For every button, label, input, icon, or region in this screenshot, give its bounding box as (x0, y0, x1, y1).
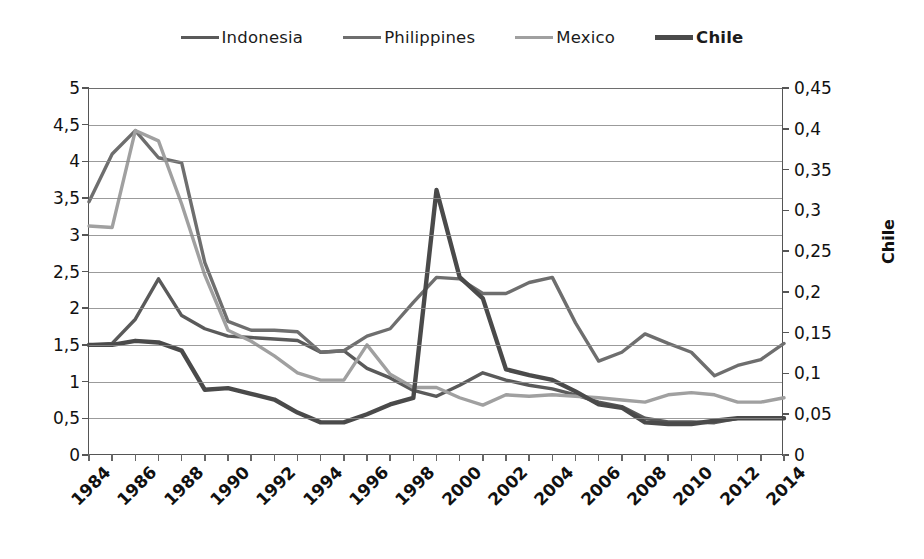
legend-item-label: Indonesia (222, 28, 304, 47)
left-axis-tick (82, 87, 89, 89)
right-axis-tick-label: 0,1 (794, 363, 821, 383)
left-axis-tick (82, 161, 89, 163)
x-axis-tick (320, 454, 322, 461)
left-axis-tick-label: 3 (69, 225, 80, 245)
gridline (89, 125, 782, 126)
right-axis-tick (782, 169, 789, 171)
legend-line-icon (343, 36, 381, 40)
legend-item-philippines: Philippines (343, 28, 475, 47)
x-axis-tick (575, 454, 577, 461)
right-axis-tick (782, 250, 789, 252)
gridline (89, 382, 782, 383)
right-axis-tick-label: 0,25 (794, 241, 832, 261)
x-axis-tick (436, 454, 438, 461)
legend-item-label: Mexico (556, 28, 615, 47)
x-axis-tick (343, 454, 345, 461)
left-axis-labels: 54,543,532,521,510,50 (8, 88, 80, 455)
x-axis-tick (528, 454, 530, 461)
right-axis-labels: 0,450,40,350,30,250,20,150,10,050 (794, 88, 864, 455)
right-axis-title: Chile (879, 219, 898, 264)
right-axis-tick-label: 0,3 (794, 200, 821, 220)
x-axis-tick-label: 1984 (67, 462, 115, 510)
right-axis-tick-label: 0,45 (794, 78, 832, 98)
x-axis-tick-label: 2008 (623, 462, 671, 510)
x-axis-tick-label: 1990 (206, 462, 254, 510)
x-axis-tick (459, 454, 461, 461)
left-axis-tick-label: 2 (69, 298, 80, 318)
gridline (89, 198, 782, 199)
chart-legend: IndonesiaPhilippinesMexicoChile (0, 28, 924, 47)
x-axis-tick (158, 454, 160, 461)
legend-line-icon (655, 35, 693, 40)
x-axis-tick-label: 2014 (762, 462, 810, 510)
x-axis-tick (644, 454, 646, 461)
right-axis-tick (782, 291, 789, 293)
left-axis-tick (82, 418, 89, 420)
left-axis-tick-label: 1,5 (53, 335, 80, 355)
series-line-mexico (89, 131, 784, 406)
legend-item-label: Chile (696, 28, 743, 47)
gridline (89, 272, 782, 273)
x-axis-tick-label: 1992 (252, 462, 300, 510)
series-line-philippines (89, 131, 784, 376)
x-axis-tick (389, 454, 391, 461)
x-axis-tick-label: 2000 (438, 462, 486, 510)
legend-item-indonesia: Indonesia (181, 28, 304, 47)
right-axis-tick-label: 0,35 (794, 160, 832, 180)
plot-area (88, 88, 783, 455)
left-axis-tick-label: 5 (69, 78, 80, 98)
x-axis-tick (250, 454, 252, 461)
x-axis-tick-label: 2002 (484, 462, 532, 510)
x-axis-tick (552, 454, 554, 461)
left-axis-tick (82, 381, 89, 383)
gridline (89, 235, 782, 236)
left-axis-tick (82, 307, 89, 309)
x-axis-tick-label: 2004 (530, 462, 578, 510)
left-axis-tick (82, 344, 89, 346)
legend-item-chile: Chile (655, 28, 743, 47)
x-axis-tick (737, 454, 739, 461)
right-axis-tick (782, 332, 789, 334)
x-axis-tick (135, 454, 137, 461)
x-axis-tick-label: 2010 (669, 462, 717, 510)
right-axis-tick-label: 0,4 (794, 119, 821, 139)
left-axis-tick-label: 2,5 (53, 262, 80, 282)
gridline (89, 88, 782, 89)
right-axis-tick-label: 0,2 (794, 282, 821, 302)
gridline (89, 308, 782, 309)
left-axis-tick (82, 234, 89, 236)
left-axis-tick-label: 4 (69, 151, 80, 171)
left-axis-tick-label: 3,5 (53, 188, 80, 208)
gridline (89, 161, 782, 162)
x-axis-tick (413, 454, 415, 461)
x-axis-tick (88, 454, 90, 461)
x-axis-tick-label: 2012 (716, 462, 764, 510)
left-axis-tick (82, 197, 89, 199)
series-line-indonesia (89, 279, 784, 423)
x-axis-tick (274, 454, 276, 461)
legend-line-icon (515, 36, 553, 40)
x-axis-tick (111, 454, 113, 461)
x-axis-tick (204, 454, 206, 461)
x-axis-tick (714, 454, 716, 461)
chart-figure: IndonesiaPhilippinesMexicoChile 54,543,5… (0, 0, 924, 559)
right-axis-tick-label: 0,15 (794, 323, 832, 343)
x-axis-tick (181, 454, 183, 461)
x-axis-tick-label: 1996 (345, 462, 393, 510)
x-axis-tick (667, 454, 669, 461)
x-axis-tick-label: 2006 (577, 462, 625, 510)
x-axis-labels: 1984198619881990199219941996199820002002… (0, 462, 924, 552)
right-axis-tick (782, 210, 789, 212)
x-axis-tick (783, 454, 785, 461)
x-axis-tick (621, 454, 623, 461)
right-axis-tick (782, 373, 789, 375)
x-axis-tick-label: 1988 (160, 462, 208, 510)
x-axis-tick (366, 454, 368, 461)
x-axis-tick (482, 454, 484, 461)
x-axis-tick-label: 1998 (391, 462, 439, 510)
x-axis-tick (760, 454, 762, 461)
right-axis-tick (782, 128, 789, 130)
x-axis-tick (598, 454, 600, 461)
right-axis-tick (782, 87, 789, 89)
x-axis-tick-label: 1994 (299, 462, 347, 510)
